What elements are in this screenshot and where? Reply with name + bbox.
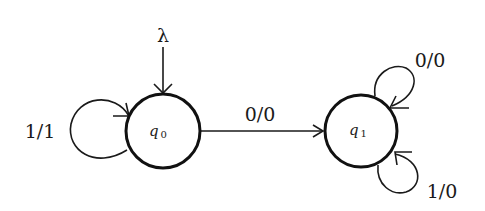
transition-label: 0/0 xyxy=(415,49,446,71)
transition-q0-q1: 0/0 xyxy=(201,103,323,137)
initial-arrow: λ xyxy=(154,24,172,93)
state-diagram: λ 1/1 0/0 0/0 1/0 q0 q1 xyxy=(0,0,485,211)
transition-q0-q0: 1/1 xyxy=(25,100,129,158)
transition-q1-q1-top: 0/0 xyxy=(375,49,446,108)
state-q1: q1 xyxy=(325,95,397,167)
state-q0: q0 xyxy=(126,94,200,168)
transition-label: 0/0 xyxy=(245,103,276,125)
start-symbol-label: λ xyxy=(157,24,169,46)
transition-q1-q1-bottom: 1/0 xyxy=(378,152,457,202)
transition-label: 1/1 xyxy=(25,120,56,142)
arrowhead-icon xyxy=(113,103,129,116)
transition-label: 1/0 xyxy=(427,180,458,202)
